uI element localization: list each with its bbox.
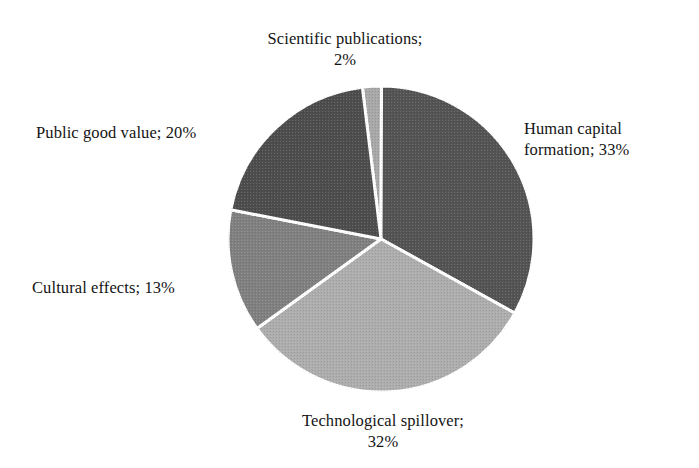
pie-label-public-good-value: Public good value; 20% — [36, 122, 254, 143]
pie-label-cultural-effects: Cultural effects; 13% — [32, 277, 242, 298]
pie-chart-figure: Scientific publications; 2% Human capita… — [0, 0, 699, 468]
pie-label-scientific-publications: Scientific publications; 2% — [232, 28, 458, 71]
pie-label-human-capital-formation: Human capital formation; 33% — [524, 118, 686, 161]
pie-halftone-texture — [228, 86, 534, 392]
pie-label-technological-spillover: Technological spillover; 32% — [252, 410, 514, 453]
pie-chart-graphic — [226, 84, 536, 394]
pie-svg — [226, 84, 536, 394]
